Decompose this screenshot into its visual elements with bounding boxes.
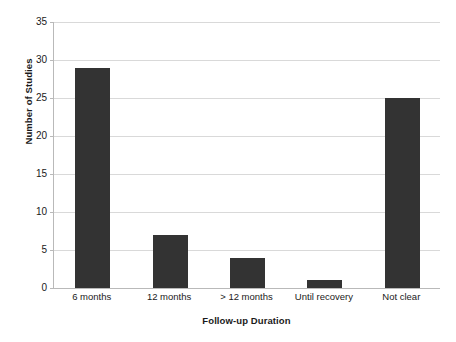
y-axis-tick-label: 10 [36,207,47,217]
gridline [54,212,440,213]
y-axis-tick-mark [50,98,54,99]
y-axis-tick-label: 30 [36,55,47,65]
bar [153,235,188,288]
y-axis-tick-label: 5 [41,245,47,255]
y-axis-title: Number of Studies [23,22,34,182]
y-axis-tick-label: 15 [36,169,47,179]
y-axis-tick-label: 35 [36,17,47,27]
gridline [54,250,440,251]
gridline [54,60,440,61]
y-axis-tick-mark [50,136,54,137]
y-axis-tick-mark [50,250,54,251]
y-axis-tick-mark [50,174,54,175]
plot-area: 05101520253035 [53,22,440,288]
y-axis-tick-label: 20 [36,131,47,141]
y-axis-tick-mark [50,60,54,61]
y-axis-tick-mark [50,22,54,23]
x-axis-category-label: 12 months [130,292,207,302]
y-axis-tick-mark [50,288,54,289]
gridline [54,174,440,175]
y-axis-tick-label: 25 [36,93,47,103]
gridline [54,288,440,289]
bar [307,280,342,288]
bar [230,258,265,288]
gridline [54,98,440,99]
bar-chart-figure: Number of Studies 05101520253035 Follow-… [0,0,456,342]
x-axis-title: Follow-up Duration [53,315,440,326]
gridline [54,136,440,137]
x-axis-category-label: 6 months [53,292,130,302]
bar [75,68,110,288]
x-axis-category-label: > 12 months [208,292,285,302]
y-axis-tick-label: 0 [41,283,47,293]
y-axis-tick-mark [50,212,54,213]
bar [385,98,420,288]
x-axis-category-label: Not clear [363,292,440,302]
gridline [54,22,440,23]
x-axis-category-label: Until recovery [285,292,362,302]
